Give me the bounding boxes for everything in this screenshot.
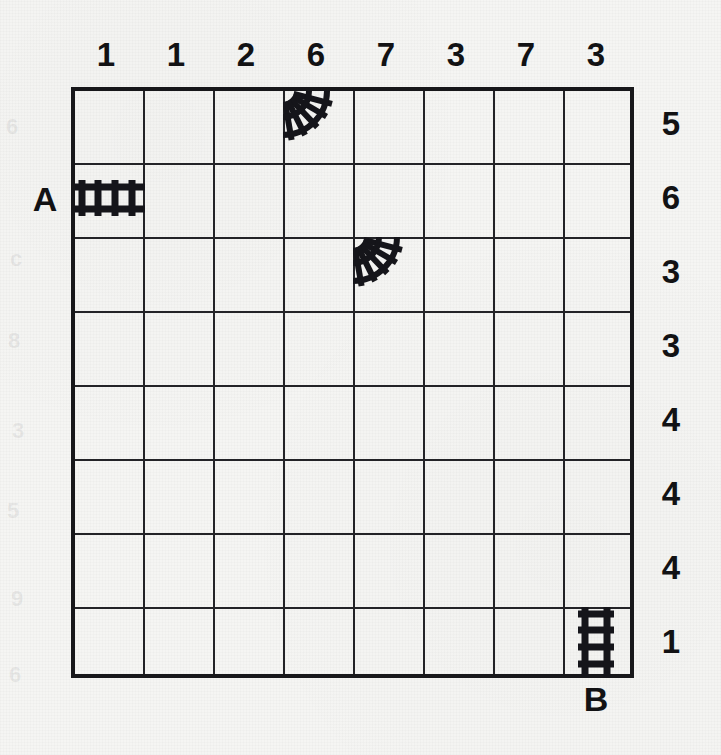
bleed-through-ghost-mark: 6 xyxy=(9,664,21,686)
curve-track-top-right[interactable] xyxy=(353,237,423,307)
row-clue-6: 4 xyxy=(648,477,694,510)
column-clue-2: 1 xyxy=(141,38,211,71)
row-clue-1: 5 xyxy=(648,107,694,140)
column-clue-4: 6 xyxy=(281,38,351,71)
column-clue-5: 7 xyxy=(351,38,421,71)
grid-horizontal-line xyxy=(75,607,630,609)
column-clue-3: 2 xyxy=(211,38,281,71)
column-clue-1: 1 xyxy=(71,38,141,71)
row-clue-3: 3 xyxy=(648,255,694,288)
grid-vertical-line xyxy=(353,91,355,674)
column-clue-6: 3 xyxy=(421,38,491,71)
row-clue-4: 3 xyxy=(648,329,694,362)
bleed-through-ghost-mark: 5 xyxy=(7,500,19,522)
train-tracks-puzzle: 1 1 2 6 7 3 7 3 5 6 3 3 4 4 4 1 A B xyxy=(0,0,721,755)
grid-horizontal-line xyxy=(75,533,630,535)
bleed-through-ghost-mark: 6 xyxy=(6,116,18,138)
row-clue-7: 4 xyxy=(648,551,694,584)
grid-horizontal-line xyxy=(75,385,630,387)
grid-vertical-line xyxy=(563,91,565,674)
endpoint-label-a: A xyxy=(22,182,68,216)
grid-vertical-line xyxy=(493,91,495,674)
row-clue-8: 1 xyxy=(648,625,694,658)
endpoint-label-b: B xyxy=(573,682,619,716)
row-clue-2: 6 xyxy=(648,181,694,214)
bleed-through-ghost-mark: c xyxy=(10,248,22,270)
row-clue-5: 4 xyxy=(648,403,694,436)
bleed-through-ghost-mark: 9 xyxy=(11,588,23,610)
column-clue-7: 7 xyxy=(491,38,561,71)
grid-horizontal-line xyxy=(75,163,630,165)
grid-vertical-line xyxy=(423,91,425,674)
grid-horizontal-line xyxy=(75,459,630,461)
grid-vertical-line xyxy=(283,91,285,674)
grid-lines xyxy=(75,91,630,674)
grid-horizontal-line xyxy=(75,311,630,313)
bleed-through-ghost-mark: 8 xyxy=(8,330,20,352)
bleed-through-ghost-mark: 3 xyxy=(12,420,24,442)
straight-horizontal-track[interactable] xyxy=(75,163,145,233)
grid-vertical-line xyxy=(213,91,215,674)
straight-vertical-track[interactable] xyxy=(561,607,631,677)
column-clue-8: 3 xyxy=(561,38,631,71)
curve-track-top-right[interactable] xyxy=(283,91,353,161)
puzzle-grid[interactable] xyxy=(71,87,634,678)
